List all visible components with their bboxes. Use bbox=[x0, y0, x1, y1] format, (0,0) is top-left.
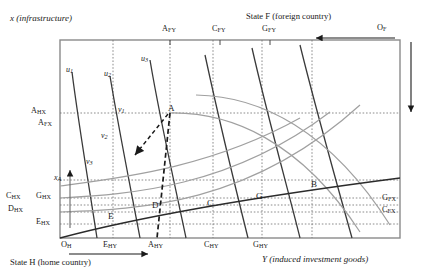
left-tick-a-fx: AFX bbox=[38, 119, 52, 127]
left-tick-d-hx-sub: HX bbox=[14, 206, 23, 213]
curve-label-v3: v3 bbox=[86, 158, 93, 166]
y-axis-title: x (infrastructure) bbox=[10, 14, 72, 23]
left-tick-a-fx-sub: FX bbox=[44, 120, 52, 127]
state-h-title: State H (home country) bbox=[10, 258, 91, 267]
left-tick-c-hx-sub: HX bbox=[11, 193, 20, 200]
bottom-tick-g-hy: GHY bbox=[253, 241, 268, 249]
top-tick-a-fy: AFY bbox=[162, 25, 176, 33]
origin-foreign-sub: F bbox=[383, 25, 387, 32]
curve-label-v2: v2 bbox=[101, 132, 108, 140]
curve-label-u3: u3 bbox=[141, 55, 148, 63]
point-label-c: C bbox=[207, 199, 213, 208]
x-axis-title: Y (induced investment goods) bbox=[262, 255, 368, 264]
curve-label-u2-sub: 2 bbox=[108, 71, 111, 78]
left-tick-x-a-sub: A bbox=[58, 175, 62, 182]
bottom-tick-c-hy: CHY bbox=[204, 241, 219, 249]
right-tick-g-fx: GFX bbox=[382, 194, 396, 202]
grid-horizontal bbox=[60, 113, 400, 224]
left-tick-g-hx-sub: HX bbox=[42, 193, 51, 200]
bottom-tick-e-hy: EHY bbox=[103, 241, 117, 249]
top-tick-a-fy-sub: FY bbox=[168, 26, 176, 33]
point-label-g: G bbox=[256, 192, 263, 201]
curve-label-u2: u2 bbox=[104, 70, 111, 78]
left-tick-e-hx-sub: HX bbox=[41, 219, 50, 226]
right-tick-g-fx-sub: FX bbox=[388, 195, 396, 202]
curve-label-u1: u1 bbox=[66, 66, 73, 74]
left-tick-d-hx: DHX bbox=[8, 205, 23, 213]
curve-label-v3-sub: 3 bbox=[90, 159, 93, 166]
adjustment-arrow bbox=[135, 114, 168, 155]
bottom-tick-g-hy-sub: HY bbox=[259, 242, 268, 249]
origin-home: OH bbox=[61, 241, 72, 249]
curve-label-v1-sub: 1 bbox=[122, 107, 125, 114]
top-tick-g-fy-sub: FY bbox=[268, 26, 276, 33]
left-tick-e-hx: EHX bbox=[36, 218, 50, 226]
curve-label-v1: v1 bbox=[118, 106, 125, 114]
state-f-title: State F (foreign country) bbox=[246, 12, 331, 21]
diagram-graphics bbox=[0, 0, 428, 280]
bottom-tick-e-hy-sub: HY bbox=[108, 242, 117, 249]
curve-label-u1-sub: 1 bbox=[70, 67, 73, 74]
bottom-tick-a-hy: AHY bbox=[148, 241, 163, 249]
curve-label-v2-sub: 2 bbox=[105, 133, 108, 140]
diagram-canvas: x (infrastructure) State F (foreign coun… bbox=[0, 0, 428, 280]
origin-home-sub: H bbox=[67, 242, 72, 249]
top-tick-c-fy-sub: FY bbox=[217, 26, 225, 33]
point-label-d: D bbox=[152, 201, 159, 210]
left-tick-g-hx: GHX bbox=[36, 192, 51, 200]
left-tick-c-hx: CHX bbox=[6, 192, 21, 200]
right-tick-c-fx-sub: FX bbox=[387, 207, 395, 214]
curve-label-u3-sub: 3 bbox=[145, 56, 148, 63]
point-label-b: B bbox=[311, 180, 317, 189]
grid-vertical bbox=[113, 40, 312, 238]
right-tick-c-fx: CFX bbox=[382, 206, 396, 214]
left-tick-a-hx-sub: HX bbox=[37, 108, 46, 115]
top-tick-g-fy: GFY bbox=[262, 25, 276, 33]
bottom-tick-a-hy-sub: HY bbox=[154, 242, 163, 249]
point-label-a: A bbox=[168, 104, 175, 113]
axis-ticks bbox=[170, 40, 270, 45]
left-tick-x-a: xA bbox=[54, 174, 61, 182]
origin-foreign: OF bbox=[377, 24, 387, 32]
top-tick-c-fy: CFY bbox=[212, 25, 226, 33]
bottom-tick-c-hy-sub: HY bbox=[209, 242, 218, 249]
left-tick-a-hx: AHX bbox=[31, 107, 46, 115]
point-label-e: E bbox=[108, 212, 114, 221]
